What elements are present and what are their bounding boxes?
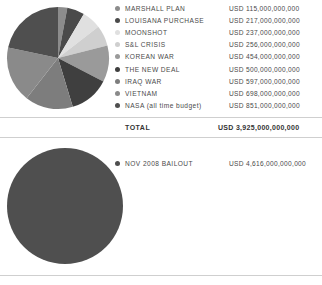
legend-value: USD 851,000,000,000: [229, 102, 300, 109]
legend-bullet-icon: [115, 79, 120, 84]
legend-bullet-icon: [115, 42, 120, 47]
legend-bullet-icon: [115, 18, 120, 23]
legend-label: LOUISANA PURCHASE: [125, 17, 229, 24]
legend-row: MARSHALL PLAN USD 115,000,000,000: [114, 2, 322, 14]
bailout-slice: [7, 148, 123, 264]
bailout-circle-svg: [6, 147, 124, 265]
legend-bullet-icon: [115, 30, 120, 35]
total-row: TOTAL USD 3,925,000,000,000: [114, 121, 322, 134]
legend-value: USD 4,616,000,000,000: [229, 160, 306, 167]
legend-value: USD 237,000,000,000: [229, 29, 300, 36]
legend-row: LOUISANA PURCHASE USD 217,000,000,000: [114, 14, 322, 26]
legend-row: IRAQ WAR USD 597,000,000,000: [114, 75, 322, 87]
legend-label: MARSHALL PLAN: [125, 5, 229, 12]
legend-label: KOREAN WAR: [125, 53, 229, 60]
total-label: TOTAL: [114, 124, 218, 131]
pie-slice-group: [7, 7, 109, 109]
bailout-section: NOV 2008 BAILOUT USD 4,616,000,000,000: [0, 143, 322, 273]
legend-label: THE NEW DEAL: [125, 66, 229, 73]
legend-label: S&L CRISIS: [125, 41, 229, 48]
legend-label: IRAQ WAR: [125, 78, 229, 85]
legend-row: KOREAN WAR USD 454,000,000,000: [114, 51, 322, 63]
legend-bullet-icon: [115, 67, 120, 72]
legend-row: VIETNAM USD 698,000,000,000: [114, 87, 322, 99]
infographic-page: MARSHALL PLAN USD 115,000,000,000 LOUISA…: [0, 0, 322, 285]
expenditures-section: MARSHALL PLAN USD 115,000,000,000 LOUISA…: [0, 0, 322, 113]
legend-value: USD 115,000,000,000: [229, 5, 299, 12]
legend-label: NASA (all time budget): [125, 102, 229, 109]
legend-row: NASA (all time budget) USD 851,000,000,0…: [114, 100, 322, 112]
legend-label: MOONSHOT: [125, 29, 229, 36]
legend-row: NOV 2008 BAILOUT USD 4,616,000,000,000: [114, 157, 322, 169]
divider-bottom: [0, 275, 322, 276]
legend-row: THE NEW DEAL USD 500,000,000,000: [114, 63, 322, 75]
divider-below-total: [0, 137, 322, 138]
total-value: USD 3,925,000,000,000: [218, 124, 299, 131]
legend-value: USD 256,000,000,000: [229, 41, 300, 48]
legend-bullet-icon: [115, 6, 120, 11]
pie-chart-bailout: [6, 147, 124, 265]
legend-label: NOV 2008 BAILOUT: [125, 160, 229, 167]
legend-value: USD 500,000,000,000: [229, 66, 300, 73]
pie-chart-expenditures: [6, 6, 110, 110]
legend-value: USD 597,000,000,000: [229, 78, 300, 85]
pie-chart-svg: [6, 6, 110, 110]
legend-bailout: NOV 2008 BAILOUT USD 4,616,000,000,000: [114, 157, 322, 169]
legend-bullet-icon: [115, 54, 120, 59]
legend-label: VIETNAM: [125, 90, 229, 97]
legend-row: MOONSHOT USD 237,000,000,000: [114, 26, 322, 38]
divider-above-total: [0, 117, 322, 118]
legend-bullet-icon: [115, 91, 120, 96]
legend-value: USD 217,000,000,000: [229, 17, 300, 24]
legend-bullet-icon: [115, 161, 120, 166]
legend-expenditures: MARSHALL PLAN USD 115,000,000,000 LOUISA…: [114, 2, 322, 112]
legend-value: USD 698,000,000,000: [229, 90, 300, 97]
legend-bullet-icon: [115, 103, 120, 108]
legend-row: S&L CRISIS USD 256,000,000,000: [114, 39, 322, 51]
legend-value: USD 454,000,000,000: [229, 53, 300, 60]
